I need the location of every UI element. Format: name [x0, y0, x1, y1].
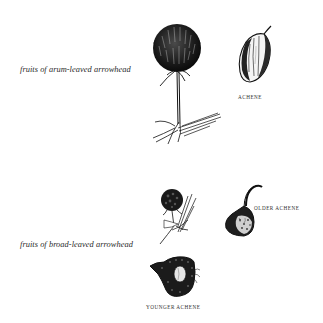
caption-arum-leaved-arrowhead: fruits of arum-leaved arrowhead: [20, 65, 131, 74]
younger-achene-drawing: [148, 254, 204, 300]
illustration-plate: fruits of arum-leaved arrowhead: [0, 0, 323, 323]
achene-drawing: [234, 24, 278, 86]
older-achene-drawing: [220, 182, 264, 240]
arum-leaved-fruit-head-drawing: [148, 18, 228, 146]
label-younger-achene: YOUNGER ACHENE: [146, 304, 200, 310]
label-achene: ACHENE: [238, 94, 262, 100]
broad-leaved-fruit-head-drawing: [158, 186, 208, 248]
label-older-achene: OLDER ACHENE: [254, 205, 299, 211]
caption-broad-leaved-arrowhead: fruits of broad-leaved arrowhead: [20, 240, 133, 249]
